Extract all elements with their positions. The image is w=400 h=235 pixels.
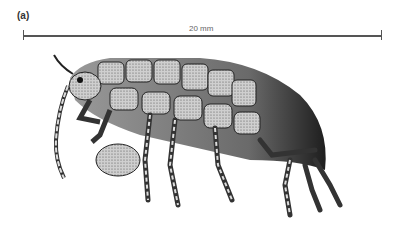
amphipod-illustration bbox=[0, 0, 400, 235]
